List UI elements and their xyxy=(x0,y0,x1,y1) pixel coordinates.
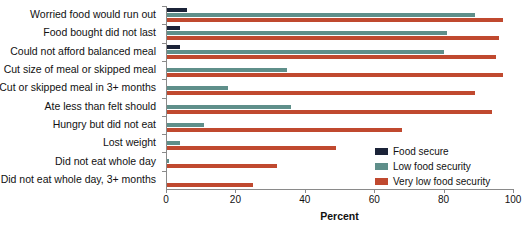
bar-verylow xyxy=(166,91,475,95)
bar-low xyxy=(166,141,180,145)
legend-label: Very low food security xyxy=(393,176,490,187)
bar-verylow xyxy=(166,146,336,150)
bar-verylow xyxy=(166,73,503,77)
bar-group xyxy=(166,98,513,116)
y-axis-tick xyxy=(162,116,166,117)
bar-group xyxy=(166,61,513,79)
bar-low xyxy=(166,50,444,54)
legend-swatch-icon xyxy=(375,148,388,155)
bar-low xyxy=(166,105,291,109)
y-axis-tick xyxy=(162,79,166,80)
x-axis-title: Percent xyxy=(166,210,513,222)
legend-swatch-icon xyxy=(375,178,388,185)
legend-item: Low food security xyxy=(375,159,490,173)
y-axis-tick xyxy=(162,61,166,62)
category-label: Cut size of meal or skipped meal xyxy=(0,64,156,75)
bar-group xyxy=(166,79,513,97)
bar-secure xyxy=(166,8,187,12)
category-label: Lost weight xyxy=(0,137,156,148)
category-label: Worried food would run out xyxy=(0,9,156,20)
bar-verylow xyxy=(166,36,499,40)
category-label: Did not eat whole day, 3+ months xyxy=(0,174,156,185)
x-axis-line xyxy=(166,189,513,190)
category-label: Cut or skipped meal in 3+ months xyxy=(0,82,156,93)
legend-label: Low food security xyxy=(393,161,471,172)
bar-secure xyxy=(166,45,180,49)
y-axis-tick xyxy=(162,171,166,172)
bar-low xyxy=(166,86,228,90)
y-axis-tick xyxy=(162,152,166,153)
bar-verylow xyxy=(166,55,496,59)
x-axis-tick-label: 0 xyxy=(163,194,169,205)
chart-legend: Food secureLow food securityVery low foo… xyxy=(375,144,490,189)
bar-verylow xyxy=(166,18,503,22)
x-axis-tick-label: 100 xyxy=(505,194,522,205)
x-axis-tick xyxy=(444,189,445,193)
x-axis-tick xyxy=(374,189,375,193)
x-axis-tick-label: 20 xyxy=(230,194,241,205)
x-axis-tick-label: 60 xyxy=(369,194,380,205)
y-axis-tick xyxy=(162,24,166,25)
bar-chart: Worried food would run outFood bought di… xyxy=(0,0,530,236)
x-axis-tick xyxy=(166,189,167,193)
x-axis-tick xyxy=(235,189,236,193)
bar-group xyxy=(166,6,513,24)
category-axis-labels: Worried food would run outFood bought di… xyxy=(0,6,160,189)
category-label: Food bought did not last xyxy=(0,27,156,38)
bar-low xyxy=(166,31,447,35)
x-axis-tick xyxy=(513,189,514,193)
x-axis-tick-label: 80 xyxy=(438,194,449,205)
category-label: Could not afford balanced meal xyxy=(0,46,156,57)
category-label: Ate less than felt should xyxy=(0,101,156,112)
legend-label: Food secure xyxy=(393,146,449,157)
legend-item: Food secure xyxy=(375,144,490,158)
bar-secure xyxy=(166,26,180,30)
x-axis-tick xyxy=(305,189,306,193)
y-axis-tick xyxy=(162,6,166,7)
bar-low xyxy=(166,123,204,127)
bar-verylow xyxy=(166,183,253,187)
bar-verylow xyxy=(166,128,402,132)
bar-group xyxy=(166,116,513,134)
bar-verylow xyxy=(166,164,277,168)
bar-group xyxy=(166,43,513,61)
bar-low xyxy=(166,13,475,17)
x-axis-tick-label: 40 xyxy=(299,194,310,205)
y-axis-tick xyxy=(162,134,166,135)
legend-item: Very low food security xyxy=(375,174,490,188)
bar-group xyxy=(166,24,513,42)
legend-swatch-icon xyxy=(375,163,388,170)
bar-verylow xyxy=(166,110,492,114)
category-label: Did not eat whole day xyxy=(0,156,156,167)
y-axis-tick xyxy=(162,98,166,99)
y-axis-tick xyxy=(162,43,166,44)
category-label: Hungry but did not eat xyxy=(0,119,156,130)
y-axis-line xyxy=(166,6,167,189)
bar-low xyxy=(166,68,287,72)
